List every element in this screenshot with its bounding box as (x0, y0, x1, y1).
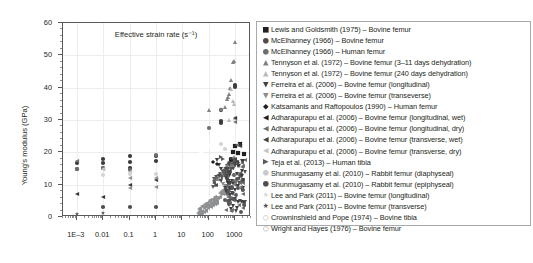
gridline-horizontal (63, 120, 249, 121)
y-axis-title: Young's modulus (GPa) (20, 66, 29, 226)
data-point (224, 173, 228, 177)
data-point (212, 177, 216, 181)
legend-item-label: McElhanney (1966) – Human femur (271, 47, 385, 56)
data-point (219, 142, 223, 146)
y-axis-tick-mark (58, 87, 62, 88)
y-axis-minor-tick (60, 171, 62, 172)
y-axis-minor-tick (60, 125, 62, 126)
legend-marker-star-icon (260, 190, 271, 201)
y-axis-minor-tick (60, 177, 62, 178)
x-axis-minor-tick (75, 216, 76, 218)
y-axis-tick-label: 50 (44, 50, 52, 59)
data-point (243, 170, 247, 174)
data-point (211, 160, 215, 164)
data-point (227, 171, 231, 175)
y-axis-minor-tick (60, 113, 62, 114)
data-point (227, 169, 231, 173)
data-point (218, 191, 222, 195)
y-axis-tick-mark (58, 184, 62, 185)
x-axis-minor-tick (194, 216, 195, 218)
data-point (211, 198, 215, 202)
legend-item[interactable]: Lewis and Goldsmith (1975) – Bovine femu… (260, 24, 527, 35)
legend-item[interactable]: Adharapurapu et al. (2006) – Bovine femu… (260, 112, 527, 123)
data-point (221, 190, 225, 194)
data-point (214, 175, 218, 179)
data-point (218, 195, 222, 199)
x-axis-tick-label: 1000 (226, 230, 242, 239)
data-point (202, 205, 206, 209)
data-point (228, 199, 232, 203)
data-point (241, 178, 245, 182)
data-point (241, 188, 245, 192)
data-point (219, 192, 223, 196)
data-point (226, 187, 230, 191)
data-point (240, 173, 244, 177)
y-axis-minor-tick (60, 145, 62, 146)
data-point (204, 208, 208, 212)
legend-item[interactable]: Teja et al. (2013) – Human tibia (260, 157, 527, 168)
legend-item-label: Ferreira et al. (2006) – Bovine femur (t… (271, 91, 431, 100)
y-axis-tick-mark (58, 54, 62, 55)
legend-item[interactable]: Lee and Park (2011) – Bovine femur (tran… (260, 201, 527, 212)
legend-marker-circle-icon (260, 179, 271, 190)
data-point (214, 201, 218, 205)
data-point (225, 180, 229, 184)
x-axis-minor-tick (247, 216, 248, 218)
y-axis-tick-mark (58, 119, 62, 120)
legend-item[interactable]: Ferreira et al. (2006) – Bovine femur (l… (260, 79, 527, 90)
legend-item[interactable]: McElhanney (1966) – Bovine femur (260, 35, 527, 46)
legend-item-label: Lee and Park (2011) – Bovine femur (tran… (271, 202, 427, 211)
data-point (225, 178, 229, 182)
data-point (204, 204, 208, 208)
data-point (241, 178, 245, 182)
legend-item[interactable]: Wright and Hayes (1976) – Bovine femur (260, 223, 527, 234)
data-point (227, 179, 231, 183)
data-point (237, 203, 241, 207)
legend-item[interactable]: Adharapurapu et al. (2006) – Bovine femu… (260, 146, 527, 157)
y-axis-minor-tick (60, 80, 62, 81)
legend-item[interactable]: Tennyson et al. (1972) – Bovine femur (3… (260, 57, 527, 68)
x-axis-minor-tick (144, 216, 145, 218)
data-point (224, 167, 228, 171)
data-point (228, 169, 232, 173)
data-point (241, 206, 245, 210)
data-point (238, 142, 242, 146)
x-axis-minor-tick (197, 216, 198, 218)
data-point (222, 191, 226, 195)
legend-item[interactable]: Shunmugasamy et al. (2010) – Rabbit femu… (260, 168, 527, 179)
x-axis-tick-mark (76, 216, 77, 220)
y-axis-minor-tick (60, 203, 62, 204)
data-point (226, 167, 230, 171)
legend-item[interactable]: Katsamanis and Raftopoulos (1990) – Huma… (260, 101, 527, 112)
legend-item[interactable]: Adharapurapu et al. (2006) – Bovine femu… (260, 123, 527, 134)
legend-item[interactable]: Crowninshield and Pope (1974) – Bovine t… (260, 212, 527, 223)
legend-item-label: Wright and Hayes (1976) – Bovine femur (271, 224, 401, 233)
data-point (225, 170, 229, 174)
legend-item[interactable]: Adharapurapu et al. (2006) – Bovine femu… (260, 134, 527, 145)
data-point (223, 198, 227, 202)
data-point (226, 188, 230, 192)
data-point (222, 188, 226, 192)
x-axis-minor-tick (101, 216, 102, 218)
y-axis-minor-tick (60, 210, 62, 211)
legend-item[interactable]: Ferreira et al. (2006) – Bovine femur (t… (260, 90, 527, 101)
data-point (198, 208, 202, 212)
legend-item[interactable]: Tennyson et al. (1972) – Bovine femur (2… (260, 68, 527, 79)
data-point (222, 171, 226, 175)
data-point (221, 190, 225, 194)
data-point (228, 201, 232, 205)
legend-item[interactable]: Shunmugasamy et al. (2010) – Rabbit femu… (260, 179, 527, 190)
data-point (239, 210, 243, 214)
legend-item[interactable]: McElhanney (1966) – Human femur (260, 46, 527, 57)
legend-item[interactable]: Lee and Park (2011) – Bovine femur (long… (260, 190, 527, 201)
x-axis-minor-tick (250, 216, 251, 218)
data-point (223, 173, 227, 177)
legend-marker-triangle-up-icon (260, 57, 271, 68)
data-point (213, 201, 217, 205)
x-axis-minor-tick (226, 216, 227, 218)
data-point (225, 97, 229, 101)
x-axis-minor-tick (84, 216, 85, 218)
data-point (211, 202, 215, 206)
data-point (230, 208, 234, 212)
data-point (212, 197, 216, 201)
